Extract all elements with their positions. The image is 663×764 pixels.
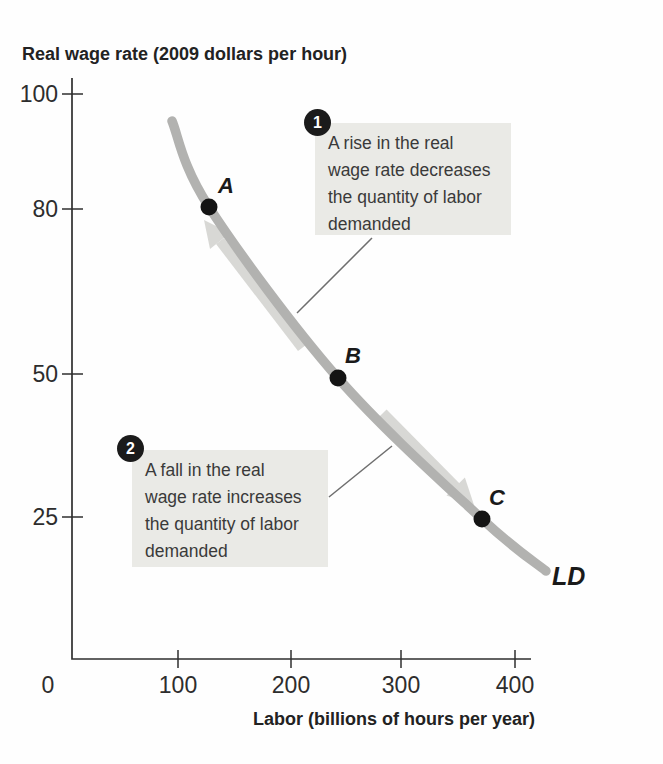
callout-2-line: the quantity of labor	[145, 511, 322, 538]
callout-1-line: demanded	[328, 211, 505, 238]
point-label-c: C	[489, 485, 506, 510]
callout-2-line: demanded	[145, 538, 322, 565]
labor-demand-figure: Real wage rate (2009 dollars per hour)	[0, 0, 663, 764]
point-dot-b	[330, 370, 347, 387]
x-tick-label-100: 100	[159, 672, 197, 698]
y-tick-label-100: 100	[20, 81, 58, 107]
y-tick-label-50: 50	[32, 361, 58, 387]
down-right-arrow-icon	[383, 413, 474, 505]
callout-2-leader-line	[329, 446, 392, 497]
callout-1-leader-line	[297, 238, 372, 313]
callout-1-line: A rise in the real	[328, 130, 505, 157]
callout-1-line: wage rate decreases	[328, 157, 505, 184]
y-tick-label-25: 25	[32, 504, 58, 530]
point-dot-a	[201, 199, 218, 216]
x-tick-label-0: 0	[42, 672, 55, 698]
x-axis-title: Labor (billions of hours per year)	[253, 709, 535, 729]
point-label-a: A	[217, 173, 234, 198]
callout-1-box: A rise in the real wage rate decreases t…	[315, 123, 511, 235]
y-tick-label-80: 80	[32, 196, 58, 222]
callout-1-line: the quantity of labor	[328, 184, 505, 211]
x-tick-label-400: 400	[496, 672, 534, 698]
y-axis-title: Real wage rate (2009 dollars per hour)	[22, 44, 347, 64]
callout-1-number: 1	[313, 114, 322, 132]
callout-2-number: 2	[126, 440, 135, 458]
up-left-arrow-icon	[204, 220, 302, 348]
callout-2-line: wage rate increases	[145, 484, 322, 511]
callout-1-badge: 1	[304, 109, 331, 136]
callout-2-line: A fall in the real	[145, 457, 322, 484]
x-tick-label-300: 300	[382, 672, 420, 698]
curve-label-ld: LD	[552, 562, 585, 590]
x-tick-label-200: 200	[272, 672, 310, 698]
callout-2-badge: 2	[117, 435, 144, 462]
point-dot-c	[474, 511, 491, 528]
labor-demand-chart: Real wage rate (2009 dollars per hour)	[0, 0, 663, 764]
callout-2-box: A fall in the real wage rate increases t…	[132, 450, 328, 567]
point-label-b: B	[345, 343, 361, 368]
